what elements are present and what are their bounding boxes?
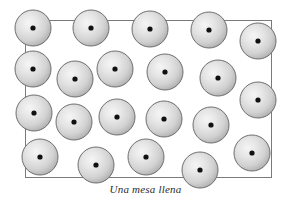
sphere [132,11,168,47]
sphere-center-dot [30,66,35,71]
sphere-center-dot [161,116,166,121]
sphere [97,51,133,87]
sphere-center-dot [114,114,119,119]
sphere-center-dot [93,162,98,167]
sphere-center-dot [72,76,77,81]
sphere [15,10,51,46]
sphere [99,99,135,135]
sphere [22,139,58,175]
sphere-center-dot [197,167,202,172]
sphere [73,10,109,46]
sphere [128,139,164,175]
sphere [56,104,92,140]
sphere [15,51,51,87]
sphere [240,82,276,118]
sphere [146,101,182,137]
spheres-layer [15,10,276,188]
sphere-center-dot [255,97,260,102]
sphere [191,12,227,48]
sphere [193,107,229,143]
sphere-center-dot [255,38,260,43]
illustration-canvas [0,0,291,201]
sphere-center-dot [208,122,213,127]
sphere-center-dot [206,27,211,32]
sphere-center-dot [71,119,76,124]
sphere-center-dot [143,154,148,159]
sphere [200,60,236,96]
sphere [57,61,93,97]
sphere-center-dot [31,110,36,115]
sphere-center-dot [162,69,167,74]
figure-caption: Una mesa llena [0,183,291,196]
sphere [234,135,270,171]
sphere-center-dot [88,25,93,30]
sphere [78,147,114,183]
sphere-center-dot [249,150,254,155]
sphere-center-dot [112,66,117,71]
sphere-center-dot [147,26,152,31]
sphere [16,95,52,131]
sphere [147,54,183,90]
sphere-center-dot [30,25,35,30]
sphere-center-dot [37,154,42,159]
sphere-center-dot [215,75,220,80]
figure-una-mesa-llena: Una mesa llena [0,0,291,201]
sphere [240,23,276,59]
